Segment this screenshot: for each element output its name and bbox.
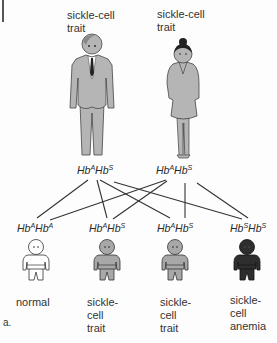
line-mother-child2 — [113, 181, 167, 219]
child3-figure-icon — [157, 238, 193, 284]
child2-genotype: HbAHbS — [89, 222, 125, 234]
child2-label: sickle-celltrait — [87, 296, 118, 335]
line-father-child1 — [37, 180, 88, 218]
child4-genotype: HbSHbS — [230, 222, 266, 234]
line-mother-child1 — [50, 180, 166, 220]
child3-label: sickle-celltrait — [160, 296, 191, 335]
line-mother-child4 — [197, 183, 248, 218]
child4-figure-icon — [229, 238, 265, 284]
child2-figure-icon — [89, 238, 125, 284]
child4-label: sickle-cellanemia — [230, 294, 266, 333]
inheritance-lines — [0, 0, 277, 343]
line-father-child2 — [97, 180, 107, 218]
child1-figure-icon — [18, 238, 54, 284]
child1-genotype: HbAHbA — [17, 222, 53, 234]
child1-label: normal — [16, 296, 50, 309]
figure-letter: a. — [3, 316, 11, 329]
child3-genotype: HbAHbS — [157, 222, 193, 234]
